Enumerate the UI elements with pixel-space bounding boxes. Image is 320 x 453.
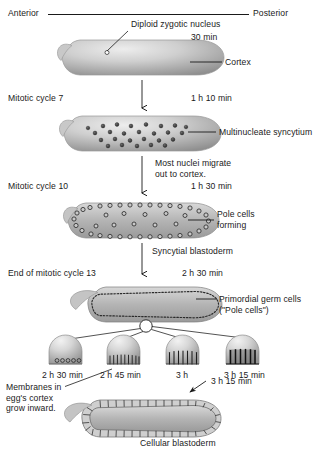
axis-label-posterior: Posterior [253, 8, 288, 19]
callout-primordial-germ-cells: Primordial germ cells ("Pole cells") [219, 294, 301, 315]
inset-dome-4 [226, 335, 259, 364]
callout-membranes-grow-inward: Membranes in egg's cortex grow inward. [6, 382, 61, 414]
final-stage-arrow [190, 381, 206, 392]
stage-2-syncytium-embryo [59, 116, 221, 151]
inset-time-1: 2 h 30 min [42, 370, 83, 381]
inset-time-3: 3 h [176, 370, 188, 381]
inset-time-2: 2 h 45 min [100, 370, 141, 381]
yolk-core [90, 406, 216, 432]
time-label-stage-1: 30 min [191, 32, 217, 43]
callout-cellular-blastoderm: Cellular blastoderm [140, 438, 216, 449]
time-label-stage-3: 1 h 30 min [191, 181, 232, 192]
transition-note-nuclei-migrate: Most nuclei migrate out to cortex. [155, 158, 231, 179]
diploid-zygotic-nucleus-dot [105, 51, 109, 55]
inset-dome-1 [49, 335, 82, 364]
time-label-stage-2: 1 h 10 min [191, 93, 232, 104]
transition-note-syncytial-blastoderm: Syncytial blastoderm [152, 246, 233, 257]
stage-label-mitotic-cycle-7: Mitotic cycle 7 [8, 93, 63, 104]
inset-dome-2 [107, 335, 140, 364]
embryo-development-figure: Anterior Posterior Diploid zygotic nucle… [0, 0, 320, 453]
callout-pole-cells-forming: Pole cells forming [217, 209, 255, 230]
stage-label-end-mitotic-cycle-13: End of mitotic cycle 13 [8, 268, 96, 279]
stage-label-mitotic-cycle-10: Mitotic cycle 10 [8, 181, 68, 192]
inset-dome-3 [166, 335, 199, 364]
stage-3-pole-cells-embryo [63, 203, 219, 239]
callout-diploid-zygotic-nucleus: Diploid zygotic nucleus [131, 19, 220, 30]
stage-4-syncytial-blastoderm-embryo [70, 287, 243, 341]
stage-5-cellular-blastoderm-embryo [64, 400, 221, 437]
time-label-stage-4: 2 h 30 min [182, 268, 223, 279]
time-label-stage-5: 3 h 15 min [211, 376, 252, 387]
callout-cortex: Cortex [225, 57, 251, 68]
callout-multinucleate-syncytium: Multinucleate syncytium [219, 127, 312, 138]
magnification-circle [140, 320, 152, 332]
inset-leader-lines [70, 327, 243, 342]
axis-label-anterior: Anterior [8, 8, 39, 19]
